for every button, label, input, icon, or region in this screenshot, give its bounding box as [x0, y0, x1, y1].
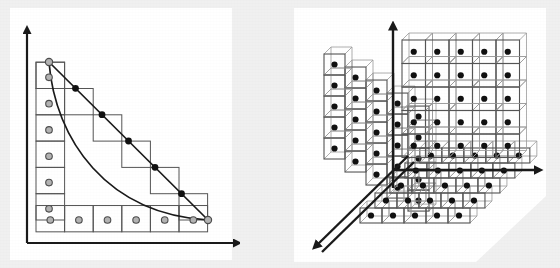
axis-node [46, 153, 53, 160]
chord-dot [178, 190, 185, 197]
cube-dot [481, 72, 487, 78]
axis-node [46, 74, 53, 81]
cube-dot [411, 96, 417, 102]
cube-dot [456, 212, 462, 218]
cube-dot [434, 96, 440, 102]
cube-dot [411, 49, 417, 55]
axis-node [46, 179, 53, 186]
cube-dot [411, 119, 417, 125]
chord-dot [99, 111, 106, 118]
cube-dot [458, 96, 464, 102]
cube-dot [373, 108, 379, 114]
endpoint-node [45, 58, 52, 65]
cube-dot [434, 212, 440, 218]
cube-lattice-panel [280, 0, 560, 268]
cube-dot [505, 119, 511, 125]
cube-dot [352, 95, 358, 101]
cube-dot [458, 143, 464, 149]
axis-node [133, 217, 140, 224]
cube-dot [449, 197, 455, 203]
cube-dot [373, 171, 379, 177]
cube-dot [411, 72, 417, 78]
cube-dot [331, 82, 337, 88]
cube-dot [505, 143, 511, 149]
cube-dot [394, 121, 400, 127]
cube-dot [394, 100, 400, 106]
cube-dot [331, 103, 337, 109]
chord-dot [125, 138, 132, 145]
axis-node [190, 217, 197, 224]
cube-dot [434, 143, 440, 149]
cube-dot [373, 129, 379, 135]
figure-container [0, 0, 560, 268]
axis-node [46, 127, 53, 134]
cube-dot [505, 96, 511, 102]
cube-dot [420, 182, 426, 188]
cube-dot [352, 74, 358, 80]
cube-dot [486, 182, 492, 188]
axis-node [46, 100, 53, 107]
staircase-svg [0, 0, 240, 268]
cube-dot [398, 182, 404, 188]
cube-dot [434, 72, 440, 78]
cube-dot [481, 119, 487, 125]
axis-node [161, 217, 168, 224]
axis-node [76, 217, 83, 224]
axis-node [47, 217, 54, 224]
cube-dot [368, 212, 374, 218]
cube-dot [373, 150, 379, 156]
cube-dot [352, 137, 358, 143]
cube-dot [415, 134, 421, 140]
cube-dot [434, 119, 440, 125]
cube-dot [458, 119, 464, 125]
cube-dot [331, 61, 337, 67]
cube-dot [481, 49, 487, 55]
cube-dot [481, 96, 487, 102]
cube-dot [505, 72, 511, 78]
cube-dot [481, 143, 487, 149]
cube-dot [458, 49, 464, 55]
cube-dot [415, 113, 421, 119]
cube-dot [415, 155, 421, 161]
cube-dot [352, 116, 358, 122]
cube-dot [442, 182, 448, 188]
cube-dot [505, 49, 511, 55]
cube-dot [471, 197, 477, 203]
chord-dot [72, 85, 79, 92]
cube-dot [331, 145, 337, 151]
staircase-panel [0, 0, 240, 268]
endpoint-node [204, 216, 211, 223]
cube-dot [394, 142, 400, 148]
cube-dot [411, 143, 417, 149]
axis-node [104, 217, 111, 224]
cube-dot [434, 49, 440, 55]
cube-lattice-svg [280, 0, 560, 268]
cube-dot [331, 124, 337, 130]
cube-dot [464, 182, 470, 188]
cube-dot [390, 212, 396, 218]
cube-dot [373, 87, 379, 93]
cube-dot [412, 212, 418, 218]
cube-dot [383, 197, 389, 203]
cube-dot [458, 72, 464, 78]
cube-dot [352, 158, 358, 164]
cube-dot [415, 176, 421, 182]
cube-dot [427, 197, 433, 203]
axis-node [46, 206, 53, 213]
chord-dot [152, 164, 159, 171]
cube-dot [405, 197, 411, 203]
